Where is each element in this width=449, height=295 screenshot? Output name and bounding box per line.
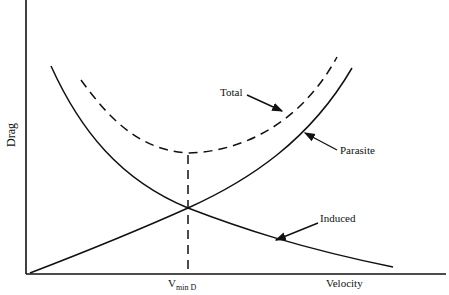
vmin-subscript: min D bbox=[176, 283, 196, 292]
drag-velocity-chart bbox=[0, 0, 449, 295]
x-axis-label: Velocity bbox=[326, 277, 363, 289]
parasite-curve bbox=[30, 68, 352, 273]
total-arrow bbox=[247, 95, 282, 111]
parasite-arrow bbox=[305, 133, 337, 150]
induced-arrow bbox=[276, 223, 318, 240]
total-curve bbox=[81, 57, 337, 153]
total-label: Total bbox=[220, 86, 242, 98]
vmin-label: Vmin D bbox=[168, 277, 196, 292]
induced-label: Induced bbox=[320, 212, 355, 224]
parasite-label: Parasite bbox=[340, 144, 375, 156]
y-axis-label: Drag bbox=[4, 123, 19, 147]
